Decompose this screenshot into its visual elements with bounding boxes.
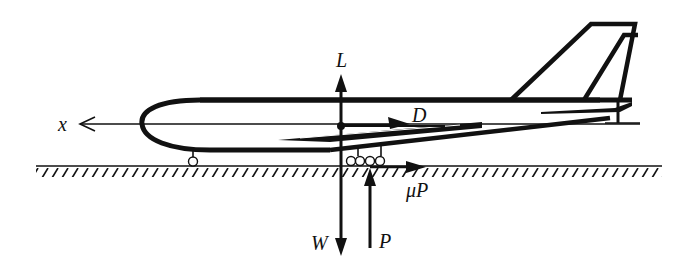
- normal-force-arrow: [364, 168, 376, 248]
- weight-label: W: [311, 233, 328, 253]
- tail-fin: [511, 24, 638, 100]
- drag-label: D: [412, 105, 426, 125]
- drag-arrow: [341, 117, 410, 129]
- weight-arrow: [335, 126, 347, 256]
- x-axis-label: x: [58, 114, 67, 134]
- friction-label: μP: [406, 180, 428, 200]
- diagram-canvas: [0, 0, 692, 274]
- normal-force-label: P: [379, 231, 391, 251]
- nose-gear: [189, 150, 198, 166]
- aircraft-force-diagram: x L D W P μP: [0, 0, 692, 274]
- lift-label: L: [336, 50, 347, 70]
- ground: [36, 166, 662, 177]
